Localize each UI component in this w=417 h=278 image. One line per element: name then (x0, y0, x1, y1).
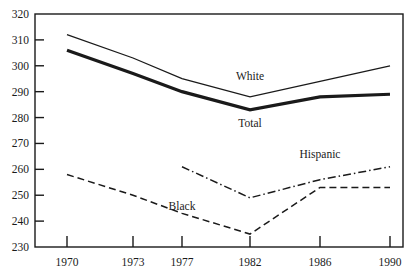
y-axis-tick-labels: 230240250260270280290300310320 (12, 8, 30, 253)
y-tick-label: 240 (12, 215, 30, 227)
plot-frame (35, 14, 403, 247)
series-line-hispanic (182, 167, 390, 198)
x-axis-tick-labels: 197019731977198219861990 (56, 256, 402, 268)
y-tick-label: 230 (12, 241, 30, 253)
x-tick-label: 1982 (239, 256, 262, 268)
y-tick-label: 260 (12, 163, 30, 175)
x-tick-label: 1973 (122, 256, 145, 268)
chart-container: 230240250260270280290300310320 197019731… (0, 0, 417, 278)
y-tick-label: 270 (12, 137, 30, 149)
series-line-total (67, 50, 390, 110)
series-line-black (67, 175, 390, 235)
y-tick-label: 250 (12, 189, 30, 201)
series-label-total: Total (238, 117, 261, 129)
x-tick-label: 1990 (379, 256, 402, 268)
y-tick-label: 310 (12, 34, 30, 46)
x-tick-label: 1986 (309, 256, 332, 268)
y-tick-label: 300 (12, 60, 30, 72)
y-tick-label: 290 (12, 86, 30, 98)
x-tick-label: 1970 (56, 256, 79, 268)
series-label-black: Black (169, 200, 196, 212)
y-tick-label: 280 (12, 112, 30, 124)
x-axis-ticks (67, 236, 390, 247)
line-chart: 230240250260270280290300310320 197019731… (0, 0, 417, 278)
series-label-hispanic: Hispanic (300, 148, 341, 161)
y-tick-label: 320 (12, 8, 30, 20)
y-axis-ticks (35, 40, 44, 221)
series-lines (67, 35, 390, 234)
x-tick-label: 1977 (171, 256, 194, 268)
series-label-white: White (236, 70, 264, 82)
